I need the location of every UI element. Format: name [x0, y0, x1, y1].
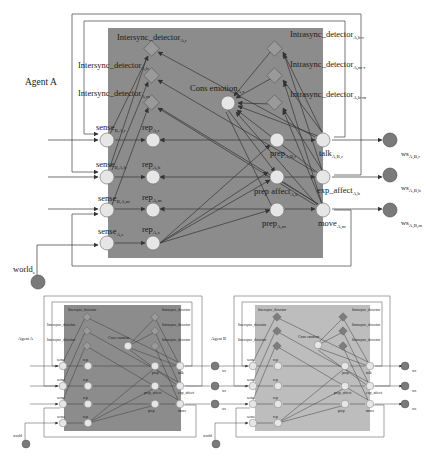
svg-text:ws: ws	[412, 369, 417, 373]
svg-text:exp_affect: exp_affect	[366, 391, 383, 395]
svg-text:Intrasync_detector: Intrasync_detector	[352, 308, 381, 312]
rep-node-r	[146, 133, 160, 147]
svg-text:rep: rep	[83, 358, 88, 362]
svg-text:rep: rep	[83, 378, 88, 382]
agent-label: Agent A	[25, 77, 57, 87]
intrasync-detectors	[267, 41, 283, 111]
svg-text:sense: sense	[57, 396, 66, 400]
svg-text:ws: ws	[222, 407, 227, 411]
svg-text:wsA,B,b: wsA,B,b	[401, 184, 421, 194]
talk-node	[316, 133, 330, 147]
svg-text:move: move	[178, 409, 187, 413]
svg-text:Cons emotion: Cons emotion	[298, 335, 319, 339]
svg-text:prep: prep	[342, 371, 349, 375]
svg-text:prep: prep	[148, 409, 155, 413]
sense-node-m	[100, 203, 114, 217]
svg-text:ws: ws	[222, 369, 227, 373]
sense-node-b	[100, 170, 114, 184]
move-node	[316, 203, 330, 217]
svg-text:world: world	[13, 434, 22, 438]
svg-text:Intersync_detector: Intersync_detector	[47, 323, 76, 327]
cons-emotion-node	[221, 96, 235, 110]
mini-shared-ws-nodes: ws ws ws	[211, 362, 248, 411]
svg-text:prep_affect: prep_affect	[144, 391, 162, 395]
svg-text:Intrasync_detector: Intrasync_detector	[162, 308, 191, 312]
svg-text:sense: sense	[247, 396, 256, 400]
svg-text:Intersync_detector: Intersync_detector	[258, 308, 287, 312]
svg-text:wsA,B,m: wsA,B,m	[401, 219, 422, 229]
svg-text:world: world	[203, 434, 212, 438]
main-agent-a-diagram: Agent A Intersync_detectorA,r Intersync_…	[13, 14, 422, 289]
exp-affect-node	[316, 170, 330, 184]
svg-text:Intrasync_detector: Intrasync_detector	[352, 323, 381, 327]
svg-text:prep: prep	[152, 371, 159, 375]
prep-affect-node	[270, 170, 284, 184]
svg-text:Intrasync_detector: Intrasync_detector	[162, 338, 191, 342]
svg-text:prep_affect: prep_affect	[334, 391, 352, 395]
ws-node-r	[383, 133, 397, 147]
svg-text:Intersync_detector: Intersync_detector	[47, 338, 76, 342]
svg-text:sense: sense	[57, 378, 66, 382]
svg-text:prep: prep	[338, 409, 345, 413]
svg-text:rep: rep	[273, 358, 278, 362]
svg-text:rep: rep	[83, 415, 88, 419]
prep-node-m	[270, 203, 284, 217]
svg-text:sense: sense	[247, 415, 256, 419]
prep-node-r	[270, 133, 284, 147]
svg-text:rep: rep	[273, 415, 278, 419]
ws-node-m	[383, 203, 397, 217]
svg-text:Agent B: Agent B	[211, 336, 226, 341]
sense-node-s	[100, 236, 114, 250]
rep-node-b	[146, 170, 160, 184]
ws-node-b	[383, 168, 397, 182]
sense-node-r	[100, 133, 114, 147]
svg-text:sense: sense	[57, 358, 66, 362]
rep-node-s	[146, 236, 160, 250]
svg-text:Intersync_detector: Intersync_detector	[68, 308, 97, 312]
svg-text:ws: ws	[412, 389, 417, 393]
svg-text:sense: sense	[57, 415, 66, 419]
svg-text:Intersync_detector: Intersync_detector	[238, 323, 267, 327]
svg-text:Cons emotion: Cons emotion	[108, 336, 129, 340]
network-diagram: Agent A Intersync_detectorA,r Intersync_…	[0, 0, 436, 456]
svg-text:worlds: worlds	[13, 264, 35, 275]
svg-text:move: move	[366, 409, 375, 413]
mini-agent-a-diagram: Agent A Intersync_detector Intersync_det…	[13, 296, 210, 448]
mini-agent-b-diagram: Agent B Intersync_detector Intersync_det…	[203, 296, 417, 448]
svg-text:talk: talk	[366, 371, 372, 375]
rep-node-m	[146, 203, 160, 217]
svg-text:rep: rep	[83, 396, 88, 400]
svg-text:talk: talk	[178, 371, 184, 375]
svg-text:exp_affect: exp_affect	[178, 391, 195, 395]
svg-text:Intrasync_detector: Intrasync_detector	[352, 338, 381, 342]
svg-text:wsA,B,r: wsA,B,r	[401, 150, 420, 160]
svg-text:rep: rep	[273, 396, 278, 400]
svg-text:ws: ws	[412, 407, 417, 411]
svg-text:Intersync_detector: Intersync_detector	[238, 338, 267, 342]
intersync-detectors	[144, 41, 160, 111]
svg-text:sense: sense	[247, 358, 256, 362]
svg-text:exp_affectA,b: exp_affectA,b	[317, 185, 361, 197]
svg-text:Intrasync_detector: Intrasync_detector	[162, 323, 191, 327]
svg-text:Agent A: Agent A	[18, 336, 34, 341]
svg-text:rep: rep	[273, 378, 278, 382]
svg-text:ws: ws	[222, 389, 227, 393]
world-node	[31, 275, 45, 289]
svg-text:sense: sense	[247, 378, 256, 382]
